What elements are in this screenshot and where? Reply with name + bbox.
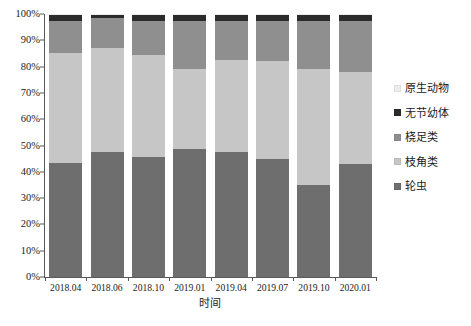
plot-area bbox=[45, 14, 376, 277]
x-axis-tick-label: 2018.06 bbox=[86, 282, 127, 294]
bar-2019.07 bbox=[256, 14, 289, 277]
bar-2020.01 bbox=[339, 14, 372, 277]
legend-item-枝角类[interactable]: 枝角类 bbox=[394, 150, 471, 175]
x-axis-tick-mark bbox=[86, 277, 87, 281]
x-axis-tick-label: 2019.07 bbox=[252, 282, 293, 294]
bar-segment-无节幼体 bbox=[173, 15, 206, 20]
bar-segment-轮虫 bbox=[339, 164, 372, 277]
legend-swatch-icon bbox=[394, 183, 401, 190]
y-axis-tick-label: 20% bbox=[0, 219, 40, 230]
legend-swatch-icon bbox=[394, 85, 401, 92]
stacked-bar-chart: 0%10%20%30%40%50%60%70%80%90%100% 2018.0… bbox=[0, 0, 471, 326]
bar-segment-无节幼体 bbox=[215, 15, 248, 20]
legend-item-轮虫[interactable]: 轮虫 bbox=[394, 174, 471, 199]
bar-2018.06 bbox=[91, 14, 124, 277]
y-axis: 0%10%20%30%40%50%60%70%80%90%100% bbox=[0, 14, 40, 277]
bar-segment-原生动物 bbox=[173, 14, 206, 15]
bar-segment-桡足类 bbox=[91, 18, 124, 48]
bar-segment-原生动物 bbox=[215, 14, 248, 15]
bar-segment-桡足类 bbox=[297, 21, 330, 70]
bar-segment-无节幼体 bbox=[132, 15, 165, 20]
legend-item-原生动物[interactable]: 原生动物 bbox=[394, 76, 471, 101]
x-axis-title: 时间 bbox=[0, 297, 420, 310]
legend-item-label: 桡足类 bbox=[405, 131, 438, 143]
bar-segment-桡足类 bbox=[49, 21, 82, 54]
bar-segment-轮虫 bbox=[173, 149, 206, 277]
bar-segment-桡足类 bbox=[256, 21, 289, 62]
x-axis-tick-mark bbox=[128, 277, 129, 281]
y-axis-tick-label: 50% bbox=[0, 140, 40, 151]
y-axis-tick-label: 70% bbox=[0, 88, 40, 99]
bar-segment-枝角类 bbox=[173, 69, 206, 149]
x-axis-tick-label: 2019.01 bbox=[169, 282, 210, 294]
bar-segment-轮虫 bbox=[297, 185, 330, 277]
x-axis-tick-label: 2019.04 bbox=[211, 282, 252, 294]
bar-segment-无节幼体 bbox=[49, 15, 82, 20]
bar-segment-原生动物 bbox=[339, 14, 372, 15]
x-axis-tick-mark bbox=[335, 277, 336, 281]
y-axis-tick-label: 30% bbox=[0, 193, 40, 204]
x-axis-tick-mark bbox=[211, 277, 212, 281]
bar-segment-原生动物 bbox=[49, 14, 82, 15]
bar-segment-枝角类 bbox=[49, 53, 82, 162]
legend-item-label: 无节幼体 bbox=[405, 107, 449, 119]
x-axis-tick-mark bbox=[376, 277, 377, 281]
bar-segment-无节幼体 bbox=[339, 15, 372, 20]
x-axis-tick-mark bbox=[252, 277, 253, 281]
y-axis-tick-label: 80% bbox=[0, 61, 40, 72]
bar-segment-原生动物 bbox=[91, 14, 124, 15]
bar-segment-枝角类 bbox=[132, 55, 165, 158]
y-axis-tick-label: 40% bbox=[0, 167, 40, 178]
bar-segment-原生动物 bbox=[132, 14, 165, 15]
bar-segment-桡足类 bbox=[173, 21, 206, 70]
bar-segment-轮虫 bbox=[215, 152, 248, 277]
bar-2019.10 bbox=[297, 14, 330, 277]
y-axis-tick-label: 0% bbox=[0, 272, 40, 283]
x-axis: 2018.042018.062018.102019.012019.042019.… bbox=[45, 280, 376, 296]
y-axis-tick-label: 60% bbox=[0, 114, 40, 125]
bar-segment-枝角类 bbox=[256, 61, 289, 158]
x-axis-tick-label: 2019.10 bbox=[293, 282, 334, 294]
bar-2019.04 bbox=[215, 14, 248, 277]
legend-item-label: 原生动物 bbox=[405, 82, 449, 94]
bar-segment-枝角类 bbox=[91, 48, 124, 152]
legend-item-label: 轮虫 bbox=[405, 180, 427, 192]
bar-segment-无节幼体 bbox=[256, 15, 289, 20]
legend-swatch-icon bbox=[394, 109, 401, 116]
x-axis-tick-mark bbox=[45, 277, 46, 281]
bar-segment-枝角类 bbox=[339, 72, 372, 164]
x-axis-tick-label: 2018.10 bbox=[128, 282, 169, 294]
legend-item-无节幼体[interactable]: 无节幼体 bbox=[394, 101, 471, 126]
y-axis-tick-label: 10% bbox=[0, 245, 40, 256]
bar-segment-桡足类 bbox=[339, 21, 372, 72]
bar-segment-轮虫 bbox=[132, 157, 165, 277]
bar-segment-轮虫 bbox=[49, 163, 82, 277]
x-axis-tick-mark bbox=[293, 277, 294, 281]
bar-segment-轮虫 bbox=[91, 152, 124, 277]
bar-2019.01 bbox=[173, 14, 206, 277]
bar-segment-原生动物 bbox=[256, 14, 289, 15]
bar-segment-桡足类 bbox=[215, 21, 248, 60]
legend: 原生动物无节幼体桡足类枝角类轮虫 bbox=[394, 76, 471, 199]
bar-2018.10 bbox=[132, 14, 165, 277]
bar-segment-无节幼体 bbox=[297, 15, 330, 20]
bar-segment-原生动物 bbox=[297, 14, 330, 15]
bar-segment-无节幼体 bbox=[91, 15, 124, 18]
x-axis-tick-mark bbox=[169, 277, 170, 281]
legend-item-桡足类[interactable]: 桡足类 bbox=[394, 125, 471, 150]
legend-swatch-icon bbox=[394, 134, 401, 141]
y-axis-tick-label: 90% bbox=[0, 35, 40, 46]
x-axis-tick-label: 2018.04 bbox=[45, 282, 86, 294]
x-axis-tick-label: 2020.01 bbox=[335, 282, 376, 294]
bar-segment-桡足类 bbox=[132, 21, 165, 55]
bar-2018.04 bbox=[49, 14, 82, 277]
legend-item-label: 枝角类 bbox=[405, 156, 438, 168]
bar-segment-轮虫 bbox=[256, 159, 289, 277]
bar-segment-枝角类 bbox=[215, 60, 248, 152]
bar-segment-枝角类 bbox=[297, 69, 330, 185]
legend-swatch-icon bbox=[394, 158, 401, 165]
y-axis-tick-label: 100% bbox=[0, 9, 40, 20]
